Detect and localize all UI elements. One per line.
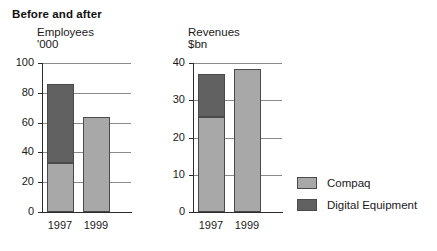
bar-1999 [83, 63, 110, 212]
y-axis-tick-label: 0 [0, 205, 34, 217]
bar-segment-digital-equipment [47, 84, 74, 163]
chart-subtitle-revenues: $bn [188, 38, 207, 51]
bar-1997 [198, 63, 225, 212]
y-axis-tick-label: 20 [0, 175, 34, 187]
y-axis-tick-label: 40 [151, 56, 185, 68]
x-axis-label-1999: 1999 [223, 219, 271, 231]
page-title: Before and after [12, 8, 102, 20]
legend-label-digital-equipment: Digital Equipment [327, 199, 417, 211]
y-axis-tick-label: 0 [151, 205, 185, 217]
legend-item-compaq: Compaq [297, 172, 417, 194]
bar-segment-compaq [47, 163, 74, 212]
bar-segment-digital-equipment [198, 74, 225, 117]
legend-swatch-compaq [297, 177, 317, 189]
bar-1997 [47, 63, 74, 212]
y-axis-line [42, 63, 43, 213]
y-axis-tick-label: 30 [151, 93, 185, 105]
x-axis-line [42, 212, 132, 213]
y-axis-tick-label: 100 [0, 56, 34, 68]
y-axis-tick-label: 20 [151, 131, 185, 143]
x-axis-line [193, 212, 283, 213]
plot-area-employees [42, 63, 131, 212]
y-axis-tick-label: 40 [0, 145, 34, 157]
figure-canvas: Before and after Employees '000 02040608… [0, 0, 437, 251]
plot-area-revenues [193, 63, 282, 212]
legend-swatch-digital-equipment [297, 199, 317, 211]
chart-subtitle-employees: '000 [37, 38, 58, 51]
bar-1999 [234, 63, 261, 212]
y-axis-tick-label: 80 [0, 86, 34, 98]
y-axis-tick-label: 10 [151, 168, 185, 180]
x-axis-label-1999: 1999 [72, 219, 120, 231]
bar-segment-compaq [234, 69, 261, 212]
legend-item-digital-equipment: Digital Equipment [297, 194, 417, 216]
bar-segment-compaq [83, 117, 110, 212]
legend-label-compaq: Compaq [327, 177, 370, 189]
y-axis-line [193, 63, 194, 213]
y-axis-tick-label: 60 [0, 116, 34, 128]
bar-segment-compaq [198, 117, 225, 212]
chart-legend: Compaq Digital Equipment [297, 172, 417, 216]
